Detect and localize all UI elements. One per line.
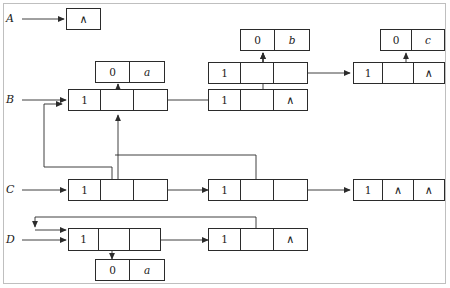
cell-c3-car: ∧	[383, 180, 413, 200]
node-d-atom-a: 0 a	[95, 259, 165, 281]
cell-d1-tag: 1	[69, 229, 99, 250]
cell-b1-tag: 1	[69, 90, 101, 110]
cell-c1-car	[101, 180, 133, 200]
node-b-atom-a: 0 a	[95, 61, 165, 83]
cell-c2-tag: 1	[209, 180, 241, 200]
cell-c3-cdr: ∧	[414, 180, 444, 200]
cell-s1-cdr	[274, 63, 307, 83]
cell-d2-car	[241, 229, 273, 250]
cell-d1-cdr	[130, 229, 160, 250]
cell-s1-tag: 1	[209, 63, 241, 83]
cell-c2-cdr	[274, 180, 307, 200]
cell-d2-cdr: ∧	[274, 229, 307, 250]
cell-d2-tag: 1	[209, 229, 241, 250]
list-label-b: B	[6, 94, 14, 105]
node-s2: 1 ∧	[353, 62, 445, 84]
cell-b2-tag: 1	[209, 90, 241, 110]
node-a-nil: ∧	[66, 8, 101, 30]
cell-b1-car	[101, 90, 133, 110]
node-atom-b: 0 b	[240, 29, 310, 51]
node-atom-c: 0 c	[380, 29, 445, 51]
node-b1: 1	[68, 89, 168, 111]
node-d2: 1 ∧	[208, 228, 308, 251]
list-label-c: C	[6, 184, 14, 195]
cell-d-atom-value: a	[130, 260, 164, 280]
cell-atom-b-tag: 0	[241, 30, 275, 50]
wire-b-to-c-share	[44, 104, 112, 185]
cell-atom-c-value: c	[412, 30, 444, 50]
list-label-d: D	[6, 234, 15, 245]
cell-c1-cdr	[134, 180, 167, 200]
cell-d1-car	[99, 229, 129, 250]
cell-b2-car	[241, 90, 273, 110]
cell-atom-b-value: b	[275, 30, 309, 50]
cell-b-atom-value: a	[130, 62, 164, 82]
node-c1: 1	[68, 179, 168, 201]
list-label-a: A	[6, 13, 14, 24]
cell-s2-cdr: ∧	[414, 63, 444, 83]
cell-atom-c-tag: 0	[381, 30, 412, 50]
cell-s2-tag: 1	[354, 63, 383, 83]
node-c2: 1	[208, 179, 308, 201]
cell-c3-tag: 1	[354, 180, 383, 200]
cell-d-atom-tag: 0	[96, 260, 130, 280]
node-c3: 1 ∧ ∧	[353, 179, 445, 201]
cell-b2-cdr: ∧	[274, 90, 307, 110]
cell-s2-car	[383, 63, 413, 83]
cell-b-atom-tag: 0	[96, 62, 130, 82]
node-b2: 1 ∧	[208, 89, 308, 111]
cell-b1-cdr	[134, 90, 167, 110]
cell-c1-tag: 1	[69, 180, 101, 200]
cell-a-nil: ∧	[67, 9, 100, 29]
cell-c2-car	[241, 180, 273, 200]
linked-list-diagram: A B C D ∧ 0 a 1 1 ∧ 0 b 1 0 c 1	[0, 0, 450, 288]
cell-s1-car	[241, 63, 273, 83]
node-d1: 1	[68, 228, 161, 251]
node-s1: 1	[208, 62, 308, 84]
